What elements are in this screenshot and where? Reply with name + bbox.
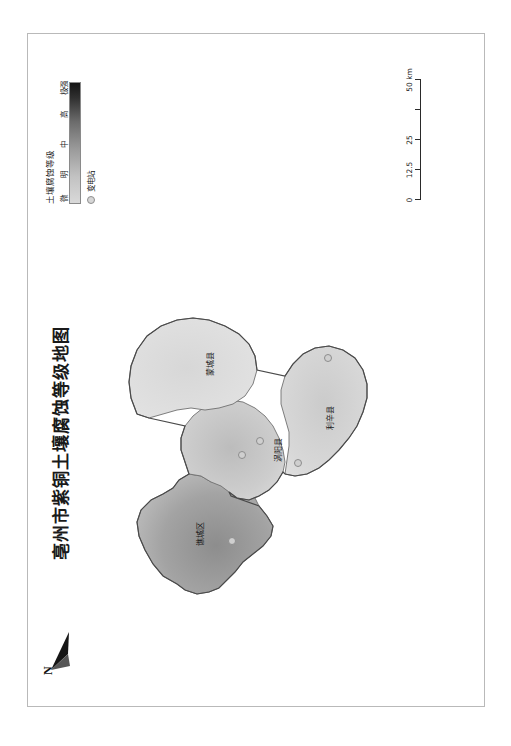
scale-label-2: 25	[405, 135, 414, 145]
scale-tick-0	[415, 199, 421, 200]
scale-label-1: 12.5	[405, 162, 414, 179]
legend-grade-4: 极强	[58, 81, 69, 95]
legend-station-entry: 变电站	[85, 54, 96, 204]
scale-tick-3	[415, 109, 421, 110]
legend-grade-2: 中	[58, 141, 69, 148]
north-arrow-letter: N	[41, 666, 56, 675]
scale-tick-4	[415, 79, 421, 80]
page-title: 亳州市紫铜土壤腐蚀等级地图	[47, 228, 72, 658]
figure-page: 亳州市紫铜土壤腐蚀等级地图 N 土壤腐蚀等级 微 明 中 高 极强	[0, 0, 511, 746]
circle-point-icon	[87, 196, 95, 204]
figure-frame: 亳州市紫铜土壤腐蚀等级地图 N 土壤腐蚀等级 微 明 中 高 极强	[27, 33, 485, 707]
station-point[interactable]	[294, 459, 302, 467]
north-arrow: N	[43, 630, 83, 676]
legend-station-label: 变电站	[85, 171, 96, 192]
scale-tick-1	[415, 169, 421, 170]
legend: 土壤腐蚀等级 微 明 中 高 极强 变电站	[43, 54, 96, 204]
scale-bar-axis	[420, 80, 421, 200]
legend-grade-3: 高	[58, 111, 69, 118]
station-point[interactable]	[256, 437, 264, 445]
legend-grade-labels: 微 明 中 高 极强	[58, 84, 69, 204]
map-body: 谯城区 涡阳县 蒙城县 利辛县	[81, 286, 451, 646]
map-polygons	[81, 286, 451, 646]
region-lixin[interactable]	[281, 346, 367, 476]
station-point[interactable]	[228, 537, 236, 545]
legend-grade-1: 明	[58, 171, 69, 178]
legend-title: 土壤腐蚀等级	[43, 54, 55, 204]
station-point[interactable]	[238, 451, 246, 459]
station-point[interactable]	[324, 354, 332, 362]
scale-tick-2	[415, 139, 421, 140]
scale-bar: 0 12.5 25 50 km	[397, 74, 431, 200]
legend-grade-0: 微	[58, 195, 69, 202]
scale-label-3: 50 km	[405, 68, 414, 92]
legend-color-ramp	[69, 82, 81, 204]
scale-label-0: 0	[405, 198, 414, 203]
rotated-map-canvas: 亳州市紫铜土壤腐蚀等级地图 N 土壤腐蚀等级 微 明 中 高 极强	[29, 34, 483, 704]
